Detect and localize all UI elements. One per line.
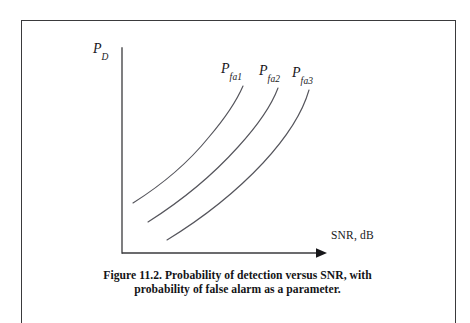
curve-pfa2 <box>148 88 278 222</box>
x-axis-arrowhead-icon <box>316 248 327 258</box>
figure-caption-line-2: probability of false alarm as a paramete… <box>40 283 435 297</box>
curve-label-pfa2-subscript: fa2 <box>268 74 281 84</box>
curve-label-pfa1: Pfa1 <box>221 60 242 80</box>
curve-label-pfa2-variable: P <box>259 63 268 78</box>
figure-caption: Figure 11.2. Probability of detection ve… <box>40 269 435 297</box>
figure-page: PD SNR, dB Pfa1 Pfa2 Pfa3 Figure 11.2. P… <box>0 0 470 323</box>
figure-caption-line-1: Figure 11.2. Probability of detection ve… <box>40 269 435 283</box>
curve-pfa3 <box>167 90 309 240</box>
y-axis-label: PD <box>93 40 109 60</box>
y-axis-subscript: D <box>102 52 109 62</box>
curve-label-pfa1-subscript: fa1 <box>230 72 243 82</box>
curve-label-pfa3-variable: P <box>292 65 301 80</box>
curve-pfa1 <box>133 86 243 203</box>
curve-label-pfa3: Pfa3 <box>292 64 313 84</box>
x-axis-label: SNR, dB <box>331 230 374 242</box>
curve-label-pfa3-subscript: fa3 <box>301 76 314 86</box>
curve-label-pfa2: Pfa2 <box>259 62 280 82</box>
curve-label-pfa1-variable: P <box>221 61 230 76</box>
y-axis-variable: P <box>93 41 102 56</box>
